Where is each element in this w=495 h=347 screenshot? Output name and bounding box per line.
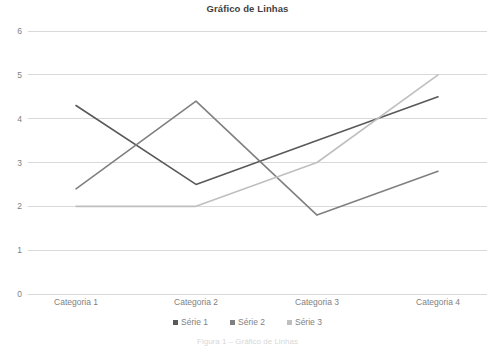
y-tick-label: 6 bbox=[0, 26, 22, 36]
y-tick-label: 2 bbox=[0, 201, 22, 211]
x-tick-label: Categoria 3 bbox=[257, 296, 377, 308]
y-tick-label: 4 bbox=[0, 114, 22, 124]
plot-area: 0123456 bbox=[0, 20, 495, 305]
legend-item-1[interactable]: Série 1 bbox=[173, 317, 208, 327]
x-axis-labels: Categoria 1Categoria 2Categoria 3Categor… bbox=[0, 296, 495, 312]
y-tick-label: 5 bbox=[0, 70, 22, 80]
legend-item-3[interactable]: Série 3 bbox=[287, 317, 322, 327]
legend-swatch-icon bbox=[287, 320, 292, 325]
legend-swatch-icon bbox=[173, 320, 178, 325]
x-tick-label: Categoria 4 bbox=[378, 296, 495, 308]
y-tick-label: 3 bbox=[0, 158, 22, 168]
x-tick-label: Categoria 2 bbox=[136, 296, 256, 308]
figure-caption: Figura 1 – Gráfico de Linhas bbox=[0, 337, 495, 347]
x-tick-label: Categoria 1 bbox=[16, 296, 136, 308]
legend-label: Série 1 bbox=[181, 317, 208, 327]
chart-legend: Série 1Série 2Série 3 bbox=[0, 317, 495, 327]
legend-label: Série 2 bbox=[238, 317, 265, 327]
y-tick-label: 1 bbox=[0, 245, 22, 255]
plot-svg bbox=[0, 20, 495, 305]
legend-swatch-icon bbox=[230, 320, 235, 325]
series-line-1 bbox=[76, 97, 438, 185]
legend-item-2[interactable]: Série 2 bbox=[230, 317, 265, 327]
legend-label: Série 3 bbox=[295, 317, 322, 327]
series-lines bbox=[76, 75, 438, 215]
chart-title: Gráfico de Linhas bbox=[0, 3, 495, 14]
